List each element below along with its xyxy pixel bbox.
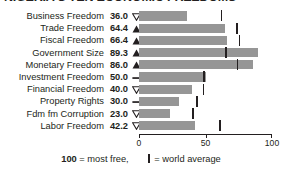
row-score: 40.0 <box>106 83 128 95</box>
world-average-marker <box>225 47 227 58</box>
bar-track <box>139 71 272 83</box>
axis-tick <box>271 134 272 138</box>
axis-tick <box>139 134 140 138</box>
world-average-marker <box>192 108 194 119</box>
row-label: Investment Freedom <box>0 71 104 83</box>
bar-track <box>139 120 272 132</box>
world-average-marker-icon <box>148 154 150 163</box>
row-label: Government Size <box>0 47 104 59</box>
axis-tick <box>206 134 207 138</box>
world-average-marker <box>237 59 239 70</box>
value-bar <box>139 121 195 130</box>
row-score: 50.0 <box>106 71 128 83</box>
bar-track <box>139 10 272 22</box>
row-label: Labor Freedom <box>0 120 104 132</box>
value-bar <box>139 72 206 81</box>
world-average-marker <box>239 35 241 46</box>
chart-legend: 100 = most free, = world average <box>0 153 282 165</box>
row-score: 30.0 <box>106 95 128 107</box>
bar-track <box>139 95 272 107</box>
legend-max-value: 100 <box>61 154 77 164</box>
axis-tick-label: 50 <box>201 138 211 148</box>
value-bar <box>139 85 192 94</box>
row-label: Business Freedom <box>0 10 104 22</box>
world-average-marker <box>203 71 205 82</box>
bar-track <box>139 47 272 59</box>
value-bar <box>139 97 179 106</box>
bar-track <box>139 108 272 120</box>
row-label: Property Rights <box>0 95 104 107</box>
world-average-marker <box>196 96 198 107</box>
value-bar <box>139 109 170 118</box>
row-score: 89.3 <box>106 47 128 59</box>
row-score: 23.0 <box>106 108 128 120</box>
chart-title: NIGERIA'S TEN ECONOMIC FREEDOMS <box>4 0 236 4</box>
row-score: 42.2 <box>106 120 128 132</box>
bar-track <box>139 34 272 46</box>
value-bar <box>139 24 225 33</box>
row-label: Monetary Freedom <box>0 59 104 71</box>
row-score: 36.0 <box>106 10 128 22</box>
legend-average-text: = world average <box>154 154 220 164</box>
world-average-marker <box>203 84 205 95</box>
row-label: Fiscal Freedom <box>0 34 104 46</box>
axis-tick-label: 100 <box>265 138 279 148</box>
row-score: 66.4 <box>106 34 128 46</box>
axis-tick-label: 0 <box>137 138 142 148</box>
row-score: 64.4 <box>106 22 128 34</box>
chart-x-axis: 050100 <box>139 134 272 150</box>
world-average-marker <box>221 10 223 21</box>
bar-track <box>139 83 272 95</box>
bar-track <box>139 22 272 34</box>
bar-track <box>139 59 272 71</box>
chart-plot-area <box>139 10 272 132</box>
world-average-marker <box>219 120 221 131</box>
economic-freedoms-chart: NIGERIA'S TEN ECONOMIC FREEDOMS Business… <box>0 0 282 175</box>
legend-max-text: = most free, <box>79 154 128 164</box>
row-label: Financial Freedom <box>0 83 104 95</box>
row-score: 86.0 <box>106 59 128 71</box>
row-label: Fdm fm Corruption <box>0 108 104 120</box>
world-average-marker <box>236 23 238 34</box>
row-label: Trade Freedom <box>0 22 104 34</box>
value-bar <box>139 11 187 20</box>
value-bar <box>139 36 227 45</box>
value-bar <box>139 48 258 57</box>
